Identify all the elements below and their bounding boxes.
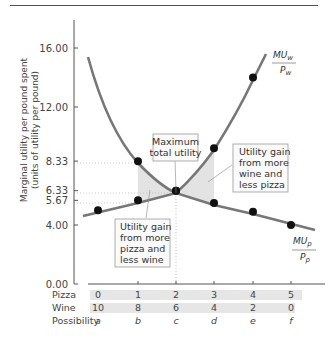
pizza-row-band (90, 290, 302, 300)
row-label: Possibility (52, 315, 99, 326)
pizza-point (287, 221, 295, 229)
svg-text:pizza and: pizza and (120, 243, 165, 254)
svg-text:MUp: MUp (293, 236, 312, 248)
svg-text:total utility: total utility (150, 147, 202, 158)
row-value: 0 (288, 302, 294, 313)
wine-row-band (90, 303, 295, 313)
row-value: 1 (135, 289, 141, 300)
row-value: d (211, 315, 218, 326)
y-ticks: 16.0012.008.336.335.674.000.00 (39, 43, 78, 290)
wine-point (210, 144, 218, 152)
svg-text:less wine: less wine (120, 254, 164, 265)
pizza-point (134, 196, 142, 204)
annotation-wine-gain: Utility gain from more wine and less piz… (208, 144, 290, 192)
row-value: 4 (211, 302, 217, 313)
svg-text:wine and: wine and (239, 168, 282, 179)
svg-text:Pw: Pw (280, 65, 291, 77)
svg-text:from more: from more (120, 232, 170, 243)
y-tick-label: 12.00 (39, 102, 68, 113)
svg-text:Pp: Pp (300, 252, 310, 264)
marginal-utility-chart: Marginal utility per pound spent (units … (0, 0, 336, 341)
row-value: f (289, 315, 294, 326)
svg-text:Utility gain: Utility gain (239, 146, 290, 157)
row-value: 2 (173, 289, 179, 300)
row-value: 5 (288, 289, 294, 300)
y-tick-label: 0.00 (46, 279, 68, 290)
wine-point (249, 74, 257, 82)
row-value: 4 (250, 289, 256, 300)
row-value: 10 (92, 302, 104, 313)
y-axis-label-line2: (units of utility per pound) (30, 71, 40, 189)
row-value: 8 (135, 302, 141, 313)
row-value: 3 (211, 289, 217, 300)
svg-text:MUw: MUw (273, 50, 293, 62)
svg-text:Maximum: Maximum (152, 136, 199, 147)
y-tick-label: 16.00 (39, 43, 68, 54)
mu-pizza-label: MUp Pp (292, 236, 316, 264)
pizza-point (249, 208, 257, 216)
row-value: 0 (95, 289, 101, 300)
y-tick-label: 4.00 (46, 220, 68, 231)
wine-point (134, 157, 142, 165)
row-label: Pizza (52, 289, 76, 300)
mu-wine-label: MUw Pw (272, 50, 296, 77)
svg-text:less pizza: less pizza (239, 179, 285, 190)
y-tick-label: 8.33 (46, 156, 68, 167)
pizza-point (210, 199, 218, 207)
row-value: e (250, 315, 256, 326)
svg-text:from more: from more (239, 157, 289, 168)
y-axis-label-line1: Marginal utility per pound spent (19, 57, 29, 202)
y-tick-label: 5.67 (46, 195, 68, 206)
row-value: a (95, 315, 101, 326)
pizza-point (94, 206, 102, 214)
row-value: 6 (173, 302, 179, 313)
svg-text:Utility gain: Utility gain (120, 221, 171, 232)
row-label: Wine (52, 302, 76, 313)
row-value: 2 (250, 302, 256, 313)
row-value: b (135, 315, 141, 326)
row-value: c (173, 315, 179, 326)
